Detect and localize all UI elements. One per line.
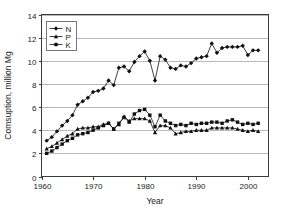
data-point-N-1988 — [184, 64, 188, 68]
data-point-N-1971 — [96, 89, 100, 93]
data-point-N-1961 — [44, 138, 48, 142]
data-point-K-1973 — [107, 122, 110, 125]
data-point-K-1983 — [158, 113, 161, 116]
data-point-P-1962 — [50, 144, 54, 148]
data-point-K-1980 — [143, 108, 146, 111]
x-tick-label-1990: 1990 — [188, 182, 206, 191]
data-point-N-1982 — [153, 78, 157, 82]
data-point-K-1997 — [231, 118, 234, 121]
data-point-K-1999 — [241, 123, 244, 126]
y-tick-label-2: 2 — [32, 150, 37, 159]
data-point-N-1981 — [148, 59, 152, 63]
data-point-K-2000 — [246, 122, 249, 125]
y-tick-label-8: 8 — [32, 81, 37, 90]
data-point-P-1964 — [60, 137, 64, 141]
data-point-N-1972 — [101, 86, 105, 90]
data-point-K-1979 — [138, 109, 141, 112]
data-point-K-1992 — [205, 122, 208, 125]
y-tick-label-14: 14 — [28, 12, 37, 21]
data-point-N-1992 — [204, 54, 208, 58]
data-point-K-1991 — [200, 122, 203, 125]
consumption-line-chart: 0246810121419601970198019902000 YearComs… — [0, 0, 284, 214]
data-point-N-1993 — [210, 41, 214, 45]
chart-legend: NPK — [47, 22, 77, 51]
data-point-K-1967 — [76, 133, 79, 136]
data-point-K-1995 — [220, 122, 223, 125]
series-K — [45, 108, 260, 155]
x-axis-title: Year — [146, 196, 163, 206]
data-point-K-1974 — [112, 127, 115, 130]
data-point-N-1999 — [241, 44, 245, 48]
data-point-K-1970 — [91, 129, 94, 132]
y-tick-label-6: 6 — [32, 104, 37, 113]
data-point-K-1984 — [164, 119, 167, 122]
data-point-K-1998 — [236, 120, 239, 123]
data-point-N-1991 — [199, 55, 203, 59]
x-tick-label-1970: 1970 — [85, 182, 103, 191]
y-tick-label-12: 12 — [28, 35, 37, 44]
data-point-K-1962 — [50, 149, 53, 152]
data-point-N-1985 — [168, 66, 172, 70]
data-point-K-1985 — [169, 122, 172, 125]
data-point-K-1981 — [148, 113, 151, 116]
data-point-K-1972 — [102, 124, 105, 127]
x-tick-label-2000: 2000 — [240, 182, 258, 191]
data-point-N-1975 — [117, 66, 121, 70]
data-point-N-1998 — [235, 45, 239, 49]
data-point-K-1975 — [117, 122, 120, 125]
data-point-K-1966 — [71, 137, 74, 140]
data-point-K-1982 — [153, 125, 156, 128]
data-point-N-1986 — [173, 67, 177, 71]
data-point-K-2002 — [256, 122, 259, 125]
data-point-N-1997 — [230, 45, 234, 49]
data-point-N-1968 — [81, 99, 85, 103]
x-tick-label-1960: 1960 — [34, 182, 52, 191]
data-point-K-1994 — [215, 120, 218, 123]
y-tick-label-4: 4 — [32, 127, 37, 136]
chart-figure: 0246810121419601970198019902000 YearComs… — [0, 0, 284, 214]
data-point-K-1976 — [122, 116, 125, 119]
data-point-K-1963 — [55, 146, 58, 149]
data-point-N-2002 — [256, 48, 260, 52]
data-point-K-1989 — [189, 122, 192, 125]
y-axis-title: Comsuption, million Mg — [3, 51, 13, 140]
x-tick-label-1980: 1980 — [137, 182, 155, 191]
data-point-K-1986 — [174, 124, 177, 127]
data-point-K-1969 — [86, 131, 89, 134]
data-point-N-1983 — [158, 54, 162, 58]
y-tick-label-10: 10 — [28, 58, 37, 67]
data-point-K-1965 — [66, 139, 69, 142]
data-point-P-1963 — [55, 141, 59, 145]
data-point-N-1967 — [75, 103, 79, 107]
data-point-K-1988 — [184, 124, 187, 127]
data-point-K-1990 — [195, 123, 198, 126]
data-point-K-1987 — [179, 123, 182, 126]
data-point-K-1968 — [81, 132, 84, 135]
data-point-K-2001 — [251, 123, 254, 126]
series-line-K — [47, 109, 259, 153]
legend-box — [47, 22, 77, 51]
legend-label-K: K — [66, 41, 72, 50]
data-point-K-1993 — [210, 120, 213, 123]
data-point-K-1996 — [226, 119, 229, 122]
data-point-K-1978 — [133, 112, 136, 115]
data-point-K-1971 — [97, 126, 100, 129]
legend-marker-K — [54, 43, 57, 46]
data-point-K-1964 — [60, 142, 63, 145]
data-point-K-1961 — [45, 152, 48, 155]
data-point-N-1987 — [179, 63, 183, 67]
data-point-N-1996 — [225, 45, 229, 49]
data-point-K-1977 — [128, 120, 131, 123]
data-series-layer — [44, 41, 260, 155]
data-point-P-2001 — [251, 128, 255, 132]
